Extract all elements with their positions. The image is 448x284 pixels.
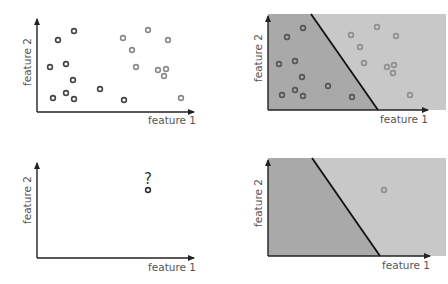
x-axis-label: feature 1: [380, 113, 428, 125]
x-axis-label: feature 1: [382, 259, 430, 271]
question-mark-annotation: ?: [144, 170, 152, 188]
panel-bottom-left-new-point: feature 2 feature 1 ?: [21, 163, 196, 273]
panel-top-right-decision-regions: feature 2 feature 1: [252, 14, 446, 125]
class-b-points: [121, 28, 184, 101]
y-axis-label: feature 2: [21, 176, 33, 224]
x-axis-label: feature 1: [148, 261, 196, 273]
x-axis-label: feature 1: [148, 114, 196, 126]
unknown-point: [146, 188, 151, 193]
y-axis-label: feature 2: [252, 179, 264, 227]
class-a-points: [48, 29, 127, 103]
panel-bottom-right-classified: feature 2 feature 1: [252, 158, 446, 271]
y-axis-label: feature 2: [252, 34, 264, 82]
y-axis-label: feature 2: [21, 38, 33, 86]
panel-top-left-scatter: feature 2 feature 1: [21, 19, 196, 126]
knn-classification-diagram: feature 2 feature 1 feature 2 feature 1: [0, 0, 448, 284]
